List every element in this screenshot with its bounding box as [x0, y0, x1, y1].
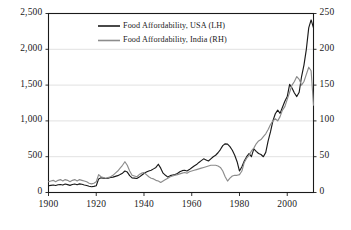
y-axis-right-tick-label: 0	[320, 186, 325, 196]
y-axis-right-tick-label: 150	[320, 79, 335, 89]
x-axis-tick-label: 1900	[29, 199, 69, 209]
y-axis-left-tick-label: 0	[38, 186, 43, 196]
legend-label-india: Food Affordability, India (RH)	[123, 35, 227, 44]
y-axis-right-tick-label: 50	[320, 150, 330, 160]
legend-label-usa: Food Affordability, USA (LH)	[123, 21, 225, 30]
y-axis-left-tick-label: 500	[28, 150, 43, 160]
y-axis-right-tick-label: 200	[320, 43, 335, 53]
y-axis-left-tick-label: 2,000	[20, 43, 42, 53]
x-axis-tick-label: 2000	[267, 199, 307, 209]
x-axis-tick-label: 1960	[172, 199, 212, 209]
y-axis-right-tick-label: 100	[320, 114, 335, 124]
gridlines-group	[49, 49, 314, 156]
data-series-group	[49, 20, 314, 187]
series-line-usa	[49, 20, 314, 187]
x-axis-tick-label: 1940	[124, 199, 164, 209]
y-axis-left-tick-label: 1,000	[20, 114, 42, 124]
y-axis-right-tick-label: 250	[320, 7, 335, 17]
chart-container: 05001,0001,5002,0002,5000501001502002501…	[0, 0, 351, 230]
y-axis-left-tick-label: 2,500	[20, 7, 42, 17]
legend-swatch-group	[98, 26, 120, 41]
x-axis-tick-label: 1920	[76, 199, 116, 209]
x-axis-tick-label: 1980	[219, 199, 259, 209]
y-axis-left-tick-label: 1,500	[20, 79, 42, 89]
